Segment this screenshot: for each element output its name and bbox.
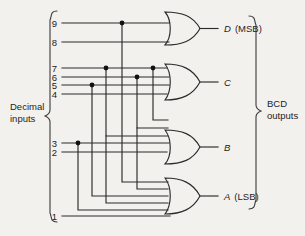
- output-symbol-c: C: [224, 77, 231, 88]
- junction-dot-9: [120, 21, 125, 26]
- output-label-d: D(MSB): [224, 23, 262, 34]
- or-gate-c[interactable]: [165, 64, 200, 100]
- input-label-4: 4: [52, 89, 57, 100]
- output-label-a: A(LSB): [223, 191, 259, 202]
- junction-dot-7b: [151, 66, 156, 71]
- input-labels: 9 8 7 6 5 4 3 2 1: [52, 18, 57, 222]
- junction-dot-7a: [104, 66, 109, 71]
- input-label-2: 2: [52, 147, 57, 158]
- output-symbol-d: D: [224, 23, 231, 34]
- circuit-svg: 9 8 7 6 5 4 3 2 1 D(MSB) C B A(LSB) Deci…: [0, 0, 305, 236]
- output-note-a: (LSB): [234, 191, 258, 202]
- decimal-inputs-label-line2: inputs: [10, 113, 36, 124]
- or-gate-a[interactable]: [165, 178, 200, 214]
- bcd-outputs-brace: [249, 16, 261, 209]
- output-note-d: (MSB): [235, 23, 262, 34]
- encoder-diagram: 9 8 7 6 5 4 3 2 1 D(MSB) C B A(LSB) Deci…: [0, 0, 305, 236]
- output-label-c: C: [224, 77, 231, 88]
- input-label-8: 8: [52, 37, 57, 48]
- or-gate-b[interactable]: [165, 130, 200, 164]
- decimal-inputs-label-line1: Decimal: [10, 101, 44, 112]
- output-symbol-b: B: [224, 142, 231, 153]
- branch-wires: [78, 23, 168, 210]
- or-gate-d[interactable]: [165, 12, 200, 45]
- branch-5-to-a: [92, 85, 168, 196]
- output-symbol-a: A: [223, 191, 230, 202]
- input-label-1: 1: [52, 211, 57, 222]
- output-label-b: B: [224, 142, 231, 153]
- junction-dot-6: [135, 75, 140, 80]
- junction-dot-3: [76, 141, 81, 146]
- branch-6-to-a: [137, 128, 168, 189]
- junction-dots: [76, 21, 156, 146]
- bcd-outputs-label-line2: outputs: [267, 110, 298, 121]
- junction-dot-5: [90, 83, 95, 88]
- bcd-outputs-label-line1: BCD: [267, 98, 287, 109]
- input-label-9: 9: [52, 18, 57, 29]
- output-wires: [200, 29, 218, 197]
- branch-9-to-a: [122, 23, 168, 182]
